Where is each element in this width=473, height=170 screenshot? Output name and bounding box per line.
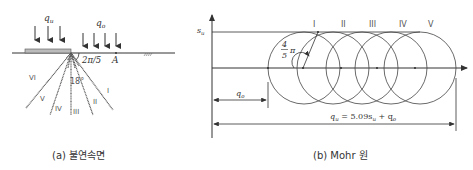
load-qo-arrows	[83, 33, 116, 46]
svg-text:4: 4	[281, 40, 287, 49]
discontinuity-figure: qu qo A 2π/5	[12, 13, 175, 116]
diagram-canvas: qu qo A 2π/5	[0, 0, 473, 170]
mohr-figure: su I II III IV V 4 5	[197, 15, 467, 138]
footing	[25, 49, 71, 53]
circle-label-ii: II	[341, 20, 346, 29]
radius-line	[303, 32, 318, 68]
load-qu-arrows	[35, 26, 60, 40]
zone-label-ii: II	[93, 98, 97, 106]
caption-a: (a) 불연속면	[52, 147, 105, 162]
load-qo-label: qo	[96, 18, 106, 29]
zone-label-vi: VI	[29, 74, 36, 82]
zone-label-iv: IV	[55, 105, 62, 113]
circle-label-iv: IV	[399, 20, 407, 29]
caption-b: (b) Mohr 원	[313, 147, 368, 162]
zone-label-i: I	[107, 87, 109, 95]
fan-angle-label: 18°	[70, 77, 84, 86]
su-label: su	[197, 26, 205, 36]
angle-arc	[76, 53, 79, 60]
point-a-marker	[115, 52, 117, 54]
point-a-label: A	[111, 55, 119, 65]
zone-label-iii: III	[73, 108, 79, 116]
zone-label-v: V	[40, 95, 45, 103]
circle-label-iii: III	[369, 20, 376, 29]
load-qu-label: qu	[44, 13, 54, 24]
circle-label-v: V	[428, 20, 434, 29]
qo-dimension-label: qo	[236, 89, 245, 99]
svg-text:π: π	[289, 46, 296, 55]
angle-label-4-5-pi: 4 5 π	[281, 40, 296, 60]
svg-text:5: 5	[282, 51, 287, 60]
circle-label-i: I	[313, 20, 315, 29]
qu-dimension-label: qu = 5.09su + qo	[330, 112, 397, 122]
angle-label: 2π/5	[81, 55, 101, 65]
